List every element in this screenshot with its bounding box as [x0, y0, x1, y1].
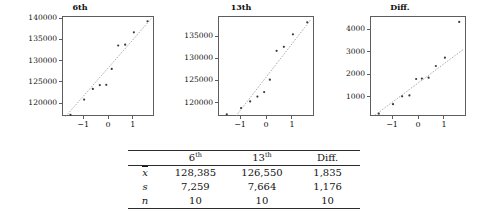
- y-axis-tick-label: 1000: [346, 93, 365, 101]
- data-point: [408, 94, 410, 96]
- data-point: [276, 50, 278, 52]
- table-row: x 128,385 126,550 1,835: [128, 166, 360, 181]
- x-axis-tick: [418, 116, 419, 119]
- y-axis-tick: [215, 36, 218, 37]
- table-header-row: 6th 13th Diff.: [128, 151, 360, 166]
- chart-panel-diff: Diff. 1000200030004000−101: [322, 0, 478, 142]
- table-row: n 10 10 10: [128, 194, 360, 209]
- table-cell-n-13th: 10: [229, 194, 296, 209]
- qq-reference-line: [236, 19, 311, 116]
- chart-panel-6th: 6th 120000125000130000135000140000−101: [0, 0, 160, 142]
- table-col-header-6th: 6th: [162, 151, 229, 166]
- data-point: [435, 65, 437, 67]
- y-axis-tick: [215, 102, 218, 103]
- y-axis-tick-label: 120000: [184, 99, 213, 107]
- y-axis-tick-label: 135000: [28, 35, 57, 43]
- table-cell-sd-13th: 7,664: [229, 180, 296, 194]
- table-corner-cell: [128, 151, 162, 166]
- x-axis-tick: [108, 116, 109, 119]
- chart-panel-13th: 13th 120000125000130000135000−101: [160, 0, 322, 142]
- data-point: [269, 79, 271, 81]
- table-row-label-mean: x: [128, 166, 162, 181]
- y-axis-tick: [59, 81, 62, 82]
- qq-reference-line: [375, 50, 463, 116]
- table-col-header-13th-base: 13: [252, 152, 265, 163]
- x-axis-tick: [392, 116, 393, 119]
- x-bar-symbol: x: [142, 167, 148, 179]
- data-point: [428, 77, 430, 79]
- x-axis-tick: [266, 116, 267, 119]
- table-cell-mean-13th: 126,550: [229, 166, 296, 181]
- data-point: [292, 33, 294, 35]
- y-axis-tick: [59, 103, 62, 104]
- table-cell-n-diff: 10: [295, 194, 360, 209]
- plot-area-diff: [370, 16, 466, 116]
- data-point: [117, 44, 119, 46]
- summary-statistics-table: 6th 13th Diff. x 128,385 126,550 1,835 s…: [128, 150, 360, 209]
- table-row: s 7,259 7,664 1,176: [128, 180, 360, 194]
- y-axis-tick-label: 125000: [184, 76, 213, 84]
- y-axis-tick: [367, 96, 370, 97]
- x-axis-tick-label: 1: [118, 120, 148, 129]
- x-axis-tick: [240, 116, 241, 119]
- y-axis-tick: [215, 58, 218, 59]
- x-axis-tick: [83, 116, 84, 119]
- y-axis-tick-label: 4000: [346, 25, 365, 33]
- qq-plots-row: 6th 120000125000130000135000140000−101 1…: [0, 0, 478, 142]
- figure-root: 6th 120000125000130000135000140000−101 1…: [0, 0, 478, 218]
- data-point: [392, 103, 394, 105]
- table-cell-mean-diff: 1,835: [295, 166, 360, 181]
- x-axis-tick-label: 1: [277, 120, 307, 129]
- data-point: [146, 20, 148, 22]
- x-axis-tick: [132, 116, 133, 119]
- table-cell-n-6th: 10: [162, 194, 229, 209]
- chart-title-13th: 13th: [160, 2, 322, 12]
- y-axis-tick-label: 140000: [28, 14, 57, 22]
- scatter-canvas: [371, 17, 467, 117]
- data-point: [421, 77, 423, 79]
- table-row-label-n: n: [128, 194, 162, 209]
- data-point: [444, 57, 446, 59]
- table-row-label-sd: s: [128, 180, 162, 194]
- data-point: [69, 114, 71, 116]
- data-point: [92, 88, 94, 90]
- data-point: [415, 78, 417, 80]
- x-axis-tick-label: 1: [429, 120, 459, 129]
- y-axis-tick-label: 130000: [28, 57, 57, 65]
- table-cell-mean-6th: 128,385: [162, 166, 229, 181]
- data-point: [111, 68, 113, 70]
- x-axis-tick: [443, 116, 444, 119]
- y-axis-tick: [59, 60, 62, 61]
- table-cell-sd-6th: 7,259: [162, 180, 229, 194]
- y-axis-tick-label: 130000: [184, 54, 213, 62]
- y-axis-tick-label: 2000: [346, 70, 365, 78]
- table-col-header-13th-sup: th: [265, 151, 272, 159]
- qq-reference-line: [65, 19, 151, 117]
- table-col-header-diff: Diff.: [295, 151, 360, 166]
- y-axis-tick-label: 125000: [28, 78, 57, 86]
- y-axis-tick: [59, 18, 62, 19]
- data-point: [133, 31, 135, 33]
- data-point: [105, 84, 107, 86]
- y-axis-tick: [367, 51, 370, 52]
- data-point: [401, 95, 403, 97]
- data-point: [226, 113, 228, 115]
- stats-table: 6th 13th Diff. x 128,385 126,550 1,835 s…: [128, 150, 360, 209]
- data-point: [263, 91, 265, 93]
- table-col-header-diff-base: Diff.: [317, 152, 338, 163]
- data-point: [83, 98, 85, 100]
- y-axis-tick-label: 120000: [28, 99, 57, 107]
- data-point: [306, 21, 308, 23]
- x-axis-tick: [291, 116, 292, 119]
- data-point: [378, 113, 380, 115]
- scatter-canvas: [219, 17, 315, 117]
- data-point: [256, 95, 258, 97]
- data-point: [249, 100, 251, 102]
- data-point: [99, 84, 101, 86]
- y-axis-tick: [367, 29, 370, 30]
- table-col-header-13th: 13th: [229, 151, 296, 166]
- plot-area-13th: [218, 16, 314, 116]
- chart-title-6th: 6th: [0, 2, 160, 12]
- y-axis-tick: [215, 80, 218, 81]
- scatter-canvas: [63, 17, 155, 117]
